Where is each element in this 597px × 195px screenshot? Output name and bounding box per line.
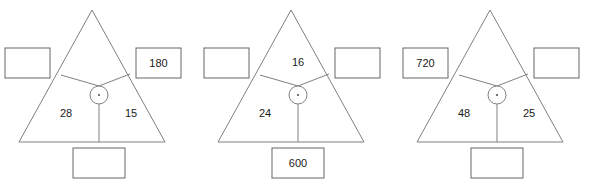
answer-box-bottom (471, 148, 523, 178)
spoke-upper-right (99, 74, 130, 86)
spoke-upper-left (459, 75, 497, 86)
answer-box-right (534, 48, 579, 78)
region-value-bottom-left: 48 (458, 108, 470, 119)
spoke-upper-left (260, 75, 298, 86)
answer-box-right-value[interactable]: 180 (149, 58, 167, 69)
multiplication-dot-icon-2 (297, 94, 299, 96)
spoke-upper-right (497, 74, 528, 86)
answer-box-bottom (73, 148, 125, 178)
region-value-bottom-right: 15 (125, 108, 137, 119)
multiplication-triangle-puzzle-3: 48 25 720 (398, 0, 597, 195)
spoke-upper-right (298, 74, 329, 86)
multiplication-triangle-puzzle-2: 16 24 600 (199, 0, 398, 195)
answer-box-left-value[interactable]: 720 (416, 58, 434, 69)
multiplication-triangle-puzzle-1: 28 15 180 (0, 0, 199, 195)
region-value-top: 16 (292, 57, 304, 68)
answer-box-bottom-value[interactable]: 600 (289, 158, 307, 169)
answer-box-left (204, 48, 249, 78)
spoke-upper-left (61, 75, 99, 86)
multiplication-dot-icon-3 (496, 94, 498, 96)
region-value-bottom-right: 25 (523, 108, 535, 119)
region-value-bottom-left: 28 (60, 108, 72, 119)
answer-box-right (335, 48, 380, 78)
answer-box-left (5, 48, 50, 78)
worksheet: 28 15 180 16 24 (0, 0, 597, 195)
region-value-bottom-left: 24 (259, 108, 271, 119)
multiplication-dot-icon-1 (98, 94, 100, 96)
